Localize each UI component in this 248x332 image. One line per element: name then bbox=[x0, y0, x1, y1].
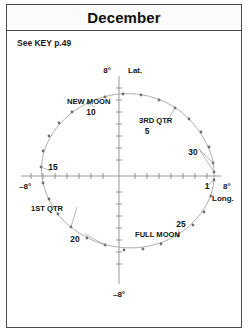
label-day-30: 30 bbox=[188, 147, 198, 157]
month-card: December See KEY p.49 bbox=[6, 4, 242, 328]
day-dot bbox=[200, 131, 203, 134]
day-dot bbox=[123, 249, 126, 252]
day-dot bbox=[203, 211, 206, 214]
day-dot bbox=[122, 93, 125, 96]
label-third-quarter: 3RD QTR bbox=[139, 116, 173, 125]
day-dot bbox=[208, 146, 211, 149]
day-dot bbox=[142, 248, 145, 251]
day-dot bbox=[42, 182, 45, 185]
leader-line-day20 bbox=[85, 234, 105, 245]
day-dot bbox=[57, 213, 60, 216]
day-dot bbox=[48, 135, 51, 138]
day-dot bbox=[160, 243, 163, 246]
label-day-15: 15 bbox=[48, 162, 58, 172]
axis-label-longitude: Long. bbox=[212, 194, 234, 203]
libration-diagram: 8° Lat. –8° –8° 8° Long. NEW MOON 10 3RD… bbox=[7, 31, 241, 328]
label-day-5: 5 bbox=[145, 126, 150, 136]
day-dot bbox=[71, 111, 74, 114]
day-dot bbox=[58, 122, 61, 125]
day-dot bbox=[86, 237, 89, 240]
axis-group bbox=[21, 76, 221, 284]
card-title-bar: December bbox=[7, 5, 241, 31]
page-title: December bbox=[87, 10, 160, 25]
axis-label-latitude: Lat. bbox=[128, 66, 142, 75]
label-first-quarter: 1ST QTR bbox=[31, 204, 64, 213]
axis-label-right: 8° bbox=[223, 182, 231, 191]
leader-line-day30 bbox=[199, 149, 213, 163]
axis-label-bottom: –8° bbox=[113, 290, 125, 299]
axis-labels: 8° Lat. –8° –8° 8° Long. bbox=[19, 66, 234, 299]
label-full-moon: FULL MOON bbox=[135, 230, 180, 239]
leader-line-day30b bbox=[199, 149, 214, 172]
day-dot bbox=[48, 198, 51, 201]
day-dot bbox=[188, 118, 191, 121]
day-dot bbox=[158, 99, 161, 102]
leader-line-qtr1 bbox=[71, 207, 77, 227]
annotation-labels: NEW MOON 10 3RD QTR 5 30 1 15 1ST QTR 20… bbox=[31, 97, 210, 244]
day-dot bbox=[42, 150, 45, 153]
axis-label-top: 8° bbox=[103, 66, 111, 75]
label-day-25: 25 bbox=[176, 219, 186, 229]
screenshot-root: December See KEY p.49 bbox=[0, 0, 248, 332]
label-day-1: 1 bbox=[205, 181, 210, 191]
libration-loop bbox=[41, 94, 214, 248]
label-new-moon: NEW MOON bbox=[67, 97, 110, 106]
label-day-10: 10 bbox=[86, 107, 96, 117]
axis-label-left: –8° bbox=[19, 182, 31, 191]
day-dot-group bbox=[40, 93, 216, 252]
day-dot bbox=[140, 94, 143, 97]
label-day-20: 20 bbox=[70, 234, 80, 244]
day-dot bbox=[192, 224, 195, 227]
